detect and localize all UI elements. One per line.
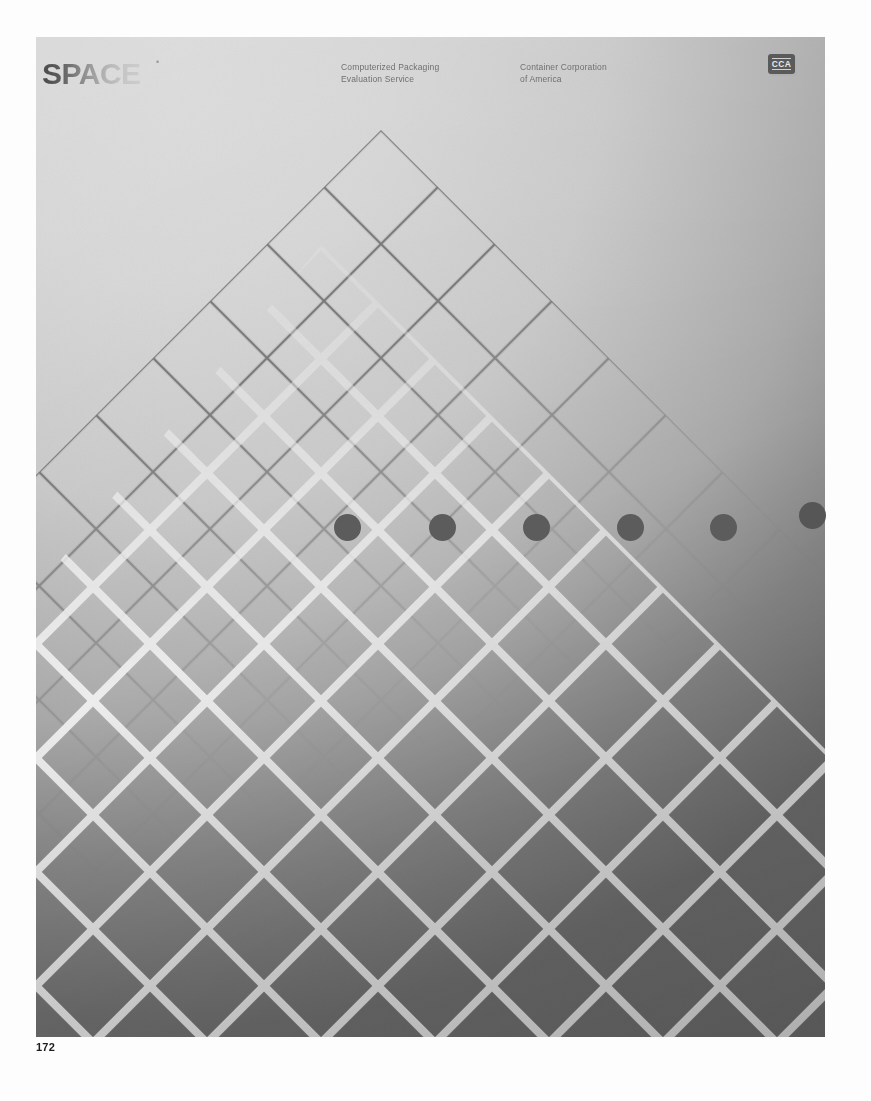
cca-logo-icon: CCA	[768, 54, 797, 76]
dot-3	[523, 514, 550, 541]
dot-2	[429, 514, 456, 541]
page-root: SPACE • Computerized Packaging Evaluatio…	[0, 0, 871, 1101]
caption-right-line2: of America	[520, 74, 607, 86]
caption-left-line1: Computerized Packaging	[341, 62, 439, 74]
dot-6	[799, 502, 826, 529]
space-logo: SPACE	[42, 59, 141, 89]
trademark-icon: •	[156, 57, 159, 67]
page-header: SPACE • Computerized Packaging Evaluatio…	[36, 37, 825, 107]
caption-left: Computerized Packaging Evaluation Servic…	[341, 62, 439, 85]
page-number: 172	[36, 1041, 55, 1053]
caption-right: Container Corporation of America	[520, 62, 607, 85]
caption-right-line1: Container Corporation	[520, 62, 607, 74]
dot-1	[334, 514, 361, 541]
dot-4	[617, 514, 644, 541]
cca-logo-plate: CCA	[768, 54, 795, 74]
page-shading-overlay	[36, 37, 825, 1037]
printed-page-sheet: SPACE • Computerized Packaging Evaluatio…	[36, 37, 825, 1037]
caption-left-line2: Evaluation Service	[341, 74, 439, 86]
dot-5	[710, 514, 737, 541]
cca-logo-text: CCA	[772, 58, 792, 70]
